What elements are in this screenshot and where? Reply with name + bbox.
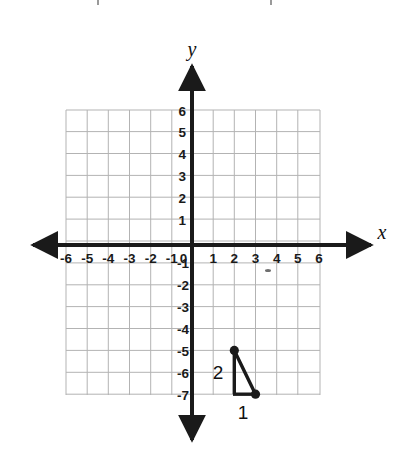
y-tick-6: 6 bbox=[178, 104, 186, 119]
x-tick--5: -5 bbox=[81, 251, 93, 266]
x-tick--3: -3 bbox=[123, 251, 135, 266]
x-tick-2: 2 bbox=[231, 251, 239, 266]
y-tick--2: -2 bbox=[177, 278, 189, 293]
y-tick-2: 2 bbox=[178, 191, 186, 206]
y-tick--4: -4 bbox=[177, 322, 189, 337]
coordinate-plane-figure: y x -6 -5 -4 -3 -2 -1 0 1 2 3 4 5 6 6 5 … bbox=[0, 0, 404, 455]
coordinate-plane-svg: y x -6 -5 -4 -3 -2 -1 0 1 2 3 4 5 6 6 5 … bbox=[0, 0, 404, 455]
horizontal-leg-length-label: 1 bbox=[238, 402, 249, 423]
x-tick--6: -6 bbox=[60, 251, 72, 266]
y-tick-4: 4 bbox=[178, 147, 186, 162]
x-tick-6: 6 bbox=[315, 251, 323, 266]
y-tick-5: 5 bbox=[178, 125, 186, 140]
triangle-vertex-point-bottom-right bbox=[251, 390, 260, 399]
triangle-vertex-point-top bbox=[230, 346, 239, 355]
y-axis-label: y bbox=[186, 38, 197, 61]
scan-artifact-text-remnant-left bbox=[97, 0, 99, 5]
x-tick-5: 5 bbox=[294, 251, 302, 266]
y-tick--1: -1 bbox=[177, 256, 189, 271]
x-tick--4: -4 bbox=[102, 251, 114, 266]
y-tick-3: 3 bbox=[178, 169, 186, 184]
y-tick--5: -5 bbox=[177, 344, 189, 359]
x-tick-1: 1 bbox=[209, 251, 217, 266]
vertical-leg-length-label: 2 bbox=[213, 362, 224, 383]
scan-artifact-text-remnant-right bbox=[270, 0, 272, 5]
scan-artifact-speck bbox=[265, 269, 271, 272]
y-tick--7: -7 bbox=[177, 388, 189, 403]
x-tick-4: 4 bbox=[273, 251, 281, 266]
x-axis-label: x bbox=[377, 221, 387, 243]
y-tick--6: -6 bbox=[177, 366, 189, 381]
y-tick-1: 1 bbox=[178, 213, 186, 228]
x-tick-3: 3 bbox=[252, 251, 260, 266]
x-tick--2: -2 bbox=[145, 251, 157, 266]
y-tick--3: -3 bbox=[177, 300, 189, 315]
